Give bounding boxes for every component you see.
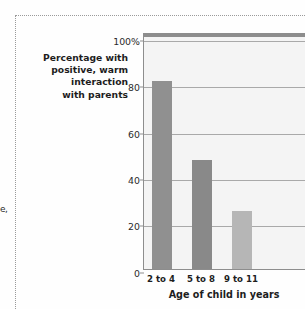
plot-area: 020406080100% (143, 33, 305, 270)
y-tick-mark (140, 226, 144, 227)
bar (152, 81, 172, 269)
x-tick-label: 9 to 11 (224, 274, 258, 284)
y-tick-mark (140, 272, 144, 273)
x-tick-label: 2 to 4 (147, 274, 175, 284)
chart-figure: e, Percentage with positive, warm intera… (0, 0, 305, 309)
y-tick-label: 0 (134, 267, 140, 278)
clipped-edge-text-fragment: e, (0, 203, 9, 215)
bar (232, 211, 252, 269)
y-tick-mark (140, 41, 144, 42)
y-tick-mark (140, 87, 144, 88)
bar-chart: 020406080100% Age of child in years 2 to… (112, 30, 305, 292)
x-axis-baseline (144, 269, 305, 270)
y-tick-label: 40 (128, 174, 140, 185)
gridline (144, 41, 305, 42)
y-tick-label: 80 (128, 82, 140, 93)
x-tick-label: 5 to 8 (187, 274, 215, 284)
y-tick-mark (140, 133, 144, 134)
y-tick-label: 60 (128, 128, 140, 139)
x-axis-title: Age of child in years (143, 289, 305, 300)
y-tick-label: 100% (113, 36, 140, 47)
bar (192, 160, 212, 269)
y-tick-label: 20 (128, 221, 140, 232)
y-tick-mark (140, 179, 144, 180)
